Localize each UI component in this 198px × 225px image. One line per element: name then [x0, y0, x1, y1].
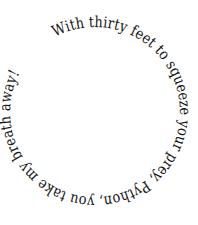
artwork-canvas: With thirty feet to squeeze your prey, P… — [0, 0, 198, 225]
circular-text-content: With thirty feet to squeeze your prey, P… — [0, 13, 194, 211]
circular-text-textpath: With thirty feet to squeeze your prey, P… — [0, 13, 194, 211]
circular-text-artwork: With thirty feet to squeeze your prey, P… — [0, 0, 198, 225]
